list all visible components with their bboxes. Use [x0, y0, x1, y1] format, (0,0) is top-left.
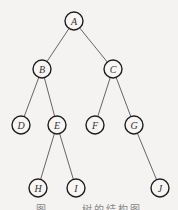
edge-b-e — [44, 78, 54, 117]
node-label: B — [39, 64, 45, 75]
tree-node-e: E — [48, 116, 66, 134]
node-label: F — [91, 120, 99, 131]
tree-diagram: ABCDEFGHIJ — [0, 0, 178, 210]
tree-node-j: J — [151, 179, 169, 197]
node-label: G — [130, 120, 137, 131]
tree-node-d: D — [12, 116, 30, 134]
node-label: I — [73, 183, 78, 194]
edge-c-g — [116, 77, 131, 116]
edge-e-h — [41, 134, 55, 180]
edge-g-j — [137, 133, 156, 179]
tree-nodes: ABCDEFGHIJ — [12, 12, 169, 197]
edge-e-i — [60, 134, 74, 180]
node-label: A — [70, 16, 78, 27]
tree-node-a: A — [65, 12, 83, 30]
figure-caption: 图 —— 树的结构图 — [0, 201, 178, 210]
edge-a-c — [80, 28, 108, 62]
node-label: C — [110, 64, 117, 75]
node-label: E — [53, 120, 60, 131]
node-label: J — [158, 183, 163, 194]
tree-node-c: C — [104, 60, 122, 78]
tree-node-i: I — [67, 179, 85, 197]
tree-edges — [24, 28, 156, 180]
edge-b-d — [24, 77, 39, 116]
node-label: D — [16, 120, 25, 131]
node-label: H — [33, 183, 42, 194]
tree-node-f: F — [86, 116, 104, 134]
tree-node-b: B — [33, 60, 51, 78]
edge-c-f — [98, 78, 110, 117]
edge-a-b — [47, 28, 69, 61]
tree-node-g: G — [125, 116, 143, 134]
tree-node-h: H — [29, 179, 47, 197]
